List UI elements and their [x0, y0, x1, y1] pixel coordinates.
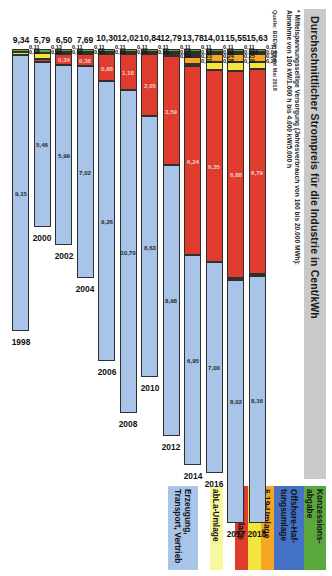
bar-total-label: 15,63	[247, 33, 269, 43]
bar-segment-value: 5,99	[58, 152, 70, 159]
bar-segment-value: 0,38	[79, 57, 91, 64]
bar-segment-eeg-umlage[interactable]: 0,34	[56, 54, 73, 64]
bar-segment-value: 8,98	[165, 297, 177, 304]
bar-segment-erzeugung-transport-vertrieb[interactable]: 8,98	[163, 165, 180, 436]
axis-year-label: 1998	[12, 337, 31, 347]
bar-total-label: 9,34	[13, 36, 30, 46]
bar-total-label: 12,79	[161, 33, 183, 43]
bar-segment-value: 2,05	[144, 82, 156, 89]
bar-segment-value: 7,00	[208, 364, 220, 371]
axis-year-label: 2014	[184, 471, 203, 481]
bar-segment-eeg-umlage[interactable]: 0,38	[77, 54, 94, 65]
bar-row: 9,340,110,089,151998	[13, 49, 30, 331]
bar-segment-value: 0,34	[58, 56, 70, 63]
bar-row: 12,020,110,051,1810,702008	[120, 49, 137, 413]
bar-row: 6,500,110,050,345,992002	[56, 49, 73, 245]
chart-plot-area: 15,630,110,040,240,266,798,16201815,550,…	[8, 9, 266, 569]
axis-year-label: 2016	[205, 479, 224, 489]
axis-year-label: 2004	[76, 284, 95, 294]
bar-total-label: 12,02	[118, 33, 140, 43]
bar-segment-erzeugung-transport-vertrieb[interactable]: 6,95	[185, 255, 202, 465]
bar-segment-erzeugung-transport-vertrieb[interactable]: 8,16	[249, 276, 266, 522]
bar-total-label: 14,01	[204, 33, 226, 43]
axis-year-label: 2018	[248, 529, 267, 539]
bar-row: 15,550,110,0060,250,296,888,022017	[228, 49, 245, 523]
bar-segment-eeg-umlage[interactable]: 6,35	[206, 70, 223, 262]
bar-segment-erzeugung-transport-vertrieb[interactable]: 9,26	[99, 81, 116, 361]
bar-segment-erzeugung-transport-vertrieb[interactable]: 10,70	[120, 90, 137, 413]
bar-segment-erzeugung-transport-vertrieb[interactable]: 5,46	[34, 62, 51, 227]
axis-year-label: 2006	[98, 367, 117, 377]
bar-total-label: 15,55	[225, 33, 247, 43]
footnote-line-1: * Mittelspannungsseitige Versorgung (Jah…	[293, 10, 301, 490]
bar-segment-value: 8,63	[144, 243, 156, 250]
bar-segment-value: 7,02	[79, 168, 91, 175]
bar-segment-value: 3,59	[165, 107, 177, 114]
bar-row: 5,790,130,205,462000	[34, 49, 51, 227]
footnote-line-2: Abnahme von 100 kW/1.600 h bis 4.000 kW/…	[285, 10, 293, 490]
segment-value-label: 0,07	[202, 58, 213, 64]
bar-segment-eeg-umlage[interactable]: 2,05	[142, 54, 159, 116]
bar-row: 10,840,110,052,058,632010	[142, 49, 159, 377]
axis-year-label: 2010	[141, 383, 160, 393]
bar-segment-eeg-umlage[interactable]: 3,59	[163, 56, 180, 164]
bar-segment-value: 5,46	[36, 141, 48, 148]
bar-segment-value: 9,26	[101, 217, 113, 224]
bar-segment-value: 6,24	[187, 157, 199, 164]
bar-segment-value: 8,02	[230, 398, 242, 405]
bar-segment-erzeugung-transport-vertrieb[interactable]: 5,99	[56, 65, 73, 246]
legend-item-offshore-haf-tungsumlage[interactable]: Offshore-Haf-tungsumlage	[274, 486, 304, 570]
bar-segment-eeg-umlage[interactable]: 6,88	[228, 71, 245, 279]
axis-year-label: 2012	[162, 442, 181, 452]
bar-row: 10,300,110,050,889,262006	[99, 49, 116, 361]
segment-value-label: 0,05	[73, 49, 84, 55]
bar-row: 13,780,110,170,230,076,246,952014	[185, 49, 202, 465]
segment-value-label: 0,05	[159, 49, 170, 55]
segment-value-label: 0,26	[266, 58, 277, 64]
bar-row: 15,630,110,040,240,266,798,162018	[249, 49, 266, 523]
bar-segment-eeg-umlage[interactable]: 1,18	[120, 54, 137, 90]
bar-segment-erzeugung-transport-vertrieb[interactable]: 8,02	[228, 280, 245, 522]
segment-value-label: 0,28	[223, 58, 234, 64]
bar-segment-erzeugung-transport-vertrieb[interactable]: 7,02	[77, 66, 94, 278]
bar-row: 7,690,110,050,387,022004	[77, 49, 94, 278]
segment-value-label: 0,20	[51, 49, 62, 55]
axis-year-label: 2017	[227, 529, 246, 539]
bar-segment-erzeugung-transport-vertrieb[interactable]: 9,15	[13, 55, 30, 331]
segment-value-label: 0,05	[137, 49, 148, 55]
segment-value-label: 0,29	[245, 58, 256, 64]
legend-item-konzessions-abgabe[interactable]: Konzessions-abgabe	[304, 486, 326, 570]
bar-segment-eeg-umlage[interactable]: 6,79	[249, 69, 266, 274]
bar-total-label: 10,84	[139, 33, 161, 43]
bar-segment-value: 8,16	[251, 396, 263, 403]
axis-year-label: 2002	[55, 252, 74, 262]
bar-segment-value: 6,88	[230, 171, 242, 178]
segment-value-label: 0,08	[30, 49, 41, 55]
bar-segment-eeg-umlage[interactable]: 6,24	[185, 66, 202, 254]
bar-segment-value: 6,79	[251, 168, 263, 175]
bar-segment-value: 6,95	[187, 356, 199, 363]
bar-row: 14,010,110,030,240,286,357,002016	[206, 49, 223, 473]
bar-segment-erzeugung-transport-vertrieb[interactable]: 7,00	[206, 262, 223, 473]
bar-row: 12,790,110,070,043,598,982012	[163, 49, 180, 436]
bar-total-label: 10,30	[96, 33, 118, 43]
segment-value-label: 0,05	[116, 49, 127, 55]
bar-segment-value: 10,70	[121, 248, 136, 255]
bar-segment-value: 1,18	[122, 69, 134, 76]
bar-segment-erzeugung-transport-vertrieb[interactable]: 8,63	[142, 116, 159, 377]
segment-value-label: 0,04	[180, 53, 191, 59]
page-title: Durchschnittlicher Strompreis für die In…	[304, 9, 326, 479]
bar-total-label: 13,78	[182, 33, 204, 43]
bar-segment-eeg-umlage[interactable]: 0,88	[99, 54, 116, 81]
axis-year-label: 2000	[33, 233, 52, 243]
page-title-text: Durchschnittlicher Strompreis für die In…	[309, 9, 321, 319]
segment-value-label: 0,05	[94, 49, 105, 55]
axis-year-label: 2008	[119, 419, 138, 429]
bar-segment-value: 0,88	[101, 64, 113, 71]
chart-figure: Durchschnittlicher Strompreis für die In…	[0, 0, 332, 576]
bar-segment-value: 6,35	[208, 162, 220, 169]
bar-segment-value: 9,15	[15, 189, 27, 196]
footnote: * Mittelspannungsseitige Versorgung (Jah…	[285, 10, 301, 490]
